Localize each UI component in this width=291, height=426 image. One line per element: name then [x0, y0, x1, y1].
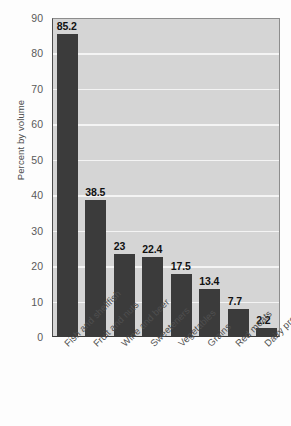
y-axis-tick-label: 20	[1, 260, 43, 272]
bar-value-label: 85.2	[57, 20, 77, 32]
bar-value-label: 38.5	[85, 186, 105, 198]
bar-slot: 7.7	[228, 19, 249, 336]
y-axis-tick-label: 50	[1, 154, 43, 166]
bar-slot: 23	[114, 19, 135, 336]
bar-slot: 13.4	[199, 19, 220, 336]
bar-slot: 17.5	[171, 19, 192, 336]
plot-area: 85.238.52322.417.513.47.72.2	[52, 18, 280, 337]
bar-value-label: 22.4	[142, 243, 162, 255]
y-axis-tick-label: 80	[1, 47, 43, 59]
bar-chart-figure: Percent by volume 9080706050403020100 85…	[0, 0, 291, 426]
bar[interactable]	[57, 34, 78, 336]
y-axis-tick-label: 30	[1, 225, 43, 237]
y-axis-tick-label: 10	[1, 296, 43, 308]
bar-value-label: 13.4	[199, 275, 219, 287]
bar-slot: 22.4	[142, 19, 163, 336]
bar-value-label: 7.7	[228, 295, 242, 307]
bars-layer: 85.238.52322.417.513.47.72.2	[53, 19, 279, 336]
y-axis-tick-label: 60	[1, 118, 43, 130]
y-axis-tick-label: 0	[1, 331, 43, 343]
bar-slot: 85.2	[57, 19, 78, 336]
bar-slot: 38.5	[85, 19, 106, 336]
x-axis-category-labels: Fish and shellfishFruit and nutsWine and…	[52, 337, 280, 426]
bar-slot: 2.2	[256, 19, 277, 336]
y-axis-tick-labels: 9080706050403020100	[0, 0, 48, 426]
y-axis-tick-label: 40	[1, 189, 43, 201]
y-axis-tick-label: 90	[1, 12, 43, 24]
bar-value-label: 17.5	[171, 260, 191, 272]
y-axis-tick-label: 70	[1, 83, 43, 95]
bar-value-label: 23	[114, 240, 125, 252]
